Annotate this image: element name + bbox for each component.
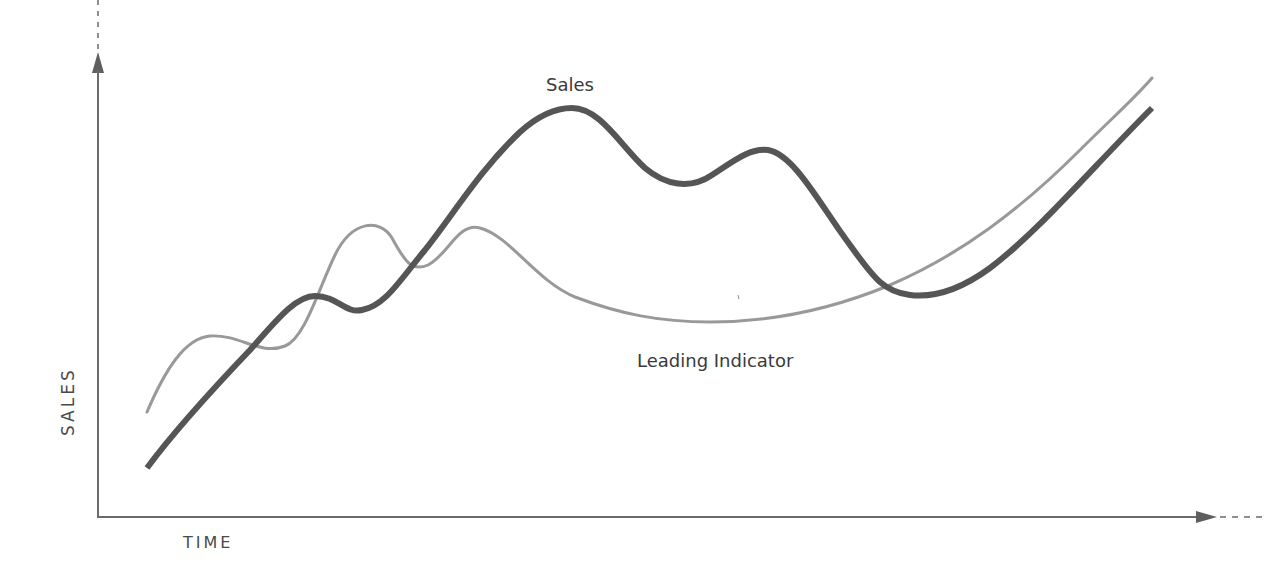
x-axis-arrow-icon bbox=[1196, 511, 1217, 523]
speck-mark bbox=[738, 295, 739, 299]
y-axis-label: SALES bbox=[58, 367, 78, 436]
y-axis-arrow-icon bbox=[92, 52, 104, 73]
sales-series-label: Sales bbox=[546, 74, 594, 95]
leading-indicator-series-label: Leading Indicator bbox=[637, 350, 793, 371]
sales-line bbox=[147, 108, 1152, 468]
x-axis-label: TIME bbox=[183, 533, 233, 552]
chart-canvas bbox=[0, 0, 1267, 571]
